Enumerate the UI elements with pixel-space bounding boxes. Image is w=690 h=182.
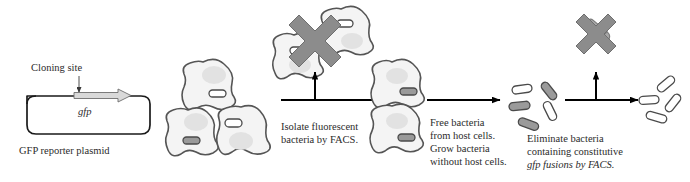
intracellular-bacterium xyxy=(209,90,226,97)
intracellular-bacterium xyxy=(398,134,415,141)
host-cell xyxy=(217,106,271,155)
step-3-label-line-3: gfp fusions by FACS. xyxy=(527,159,614,170)
intracellular-bacterium xyxy=(225,119,242,127)
host-cell xyxy=(370,104,423,153)
nucleus xyxy=(184,113,208,131)
step-1-label-line-1: Isolate fluorescent xyxy=(281,121,358,132)
step-2-label-line-1: Free bacteria xyxy=(430,117,485,128)
host-cell xyxy=(371,59,424,107)
bacterium xyxy=(509,101,531,111)
bacterium xyxy=(639,95,660,104)
host-cell xyxy=(182,59,235,109)
step-2-label-line-2: from host cells. xyxy=(430,130,495,141)
intracellular-bacterium xyxy=(400,88,417,95)
step-2-label-line-3: Grow bacteria xyxy=(430,143,490,154)
step-3-label-line-1: Eliminate bacteria xyxy=(527,133,604,144)
nucleus xyxy=(341,33,363,49)
step-2-label-line-4: without host cells. xyxy=(430,156,507,167)
nucleus xyxy=(386,68,408,84)
nucleus xyxy=(202,66,226,84)
step-1-label-line-2: bacteria by FACS. xyxy=(281,134,358,145)
dfi-facs-workflow-figure: Cloning site gfp GFP reporter plasmid xyxy=(0,0,690,182)
intracellular-bacterium xyxy=(183,137,200,144)
plasmid-caption: GFP reporter plasmid xyxy=(19,145,110,156)
cloning-site-label: Cloning site xyxy=(31,62,82,73)
nucleus xyxy=(386,113,408,129)
gfp-gene-label: gfp xyxy=(78,106,91,117)
nucleus xyxy=(229,132,253,150)
selected-host-cells-group xyxy=(370,59,424,152)
step-3-label-line-2: containing constitutive xyxy=(527,146,623,157)
host-cell xyxy=(166,108,219,156)
